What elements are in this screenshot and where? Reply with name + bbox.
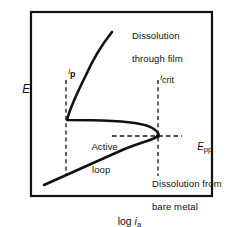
annotation-active-loop: Active loop — [81, 129, 118, 187]
marker-label-icrit-symbol: i — [160, 73, 162, 82]
marker-label-icrit: icrit — [149, 63, 174, 97]
marker-label-epp: Epp — [186, 130, 212, 163]
annotation-active-loop-line1: Active — [91, 141, 117, 152]
marker-label-ip-subscript: p — [70, 69, 76, 79]
polarization-figure: E log ia Dissolution through film Dissol… — [0, 0, 231, 227]
annotation-dissolution-through-film-line1: Dissolution — [132, 30, 180, 41]
icrit-epp-point-marker — [156, 134, 160, 138]
marker-label-epp-symbol: E — [197, 141, 204, 152]
annotation-dissolution-through-film-line2: through film — [132, 53, 183, 64]
marker-label-epp-subscript: pp — [204, 145, 213, 154]
annotation-dissolution-from-bare-metal-line2: bare metal — [152, 201, 198, 212]
marker-label-ip-symbol: i — [68, 67, 70, 76]
marker-label-ip: ip — [57, 57, 75, 91]
annotation-active-loop-line2: loop — [92, 164, 110, 175]
annotation-dissolution-from-bare-metal: Dissolution from bare metal — [141, 166, 222, 224]
x-axis-label: log ia — [106, 205, 141, 227]
annotation-dissolution-from-bare-metal-line1: Dissolution from — [152, 178, 222, 189]
y-axis-label: E — [9, 73, 30, 106]
marker-label-icrit-subscript: crit — [162, 75, 174, 85]
y-axis-label-text: E — [22, 82, 30, 96]
x-axis-label-prefix: log — [118, 215, 135, 227]
